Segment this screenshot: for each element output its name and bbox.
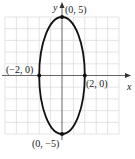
x-axis-arrow-icon: [125, 73, 131, 78]
x-axis-label: x: [126, 81, 132, 92]
label-bottom: (0, −5): [32, 138, 59, 150]
point-left: [37, 74, 41, 78]
ellipse-chart: y x (0, 5) (0, −5) (−2, 0) (2, 0): [0, 0, 135, 159]
label-right: (2, 0): [86, 78, 108, 90]
point-top: [60, 15, 64, 19]
y-axis-arrow-icon: [60, 2, 65, 8]
y-axis-label: y: [52, 2, 58, 13]
point-right: [83, 74, 87, 78]
label-left: (−2, 0): [6, 64, 33, 76]
point-bottom: [60, 132, 64, 136]
label-top: (0, 5): [65, 4, 87, 16]
